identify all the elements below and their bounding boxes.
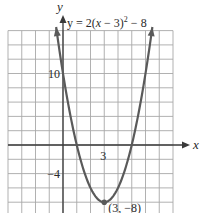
equation-suffix: − 8 bbox=[128, 16, 147, 30]
y-axis-label: y bbox=[55, 0, 63, 14]
annotations: (3, −8) bbox=[108, 201, 141, 213]
vertex-point bbox=[101, 199, 107, 205]
y-axis-arrow-icon bbox=[60, 15, 67, 23]
equation-mid: − 3) bbox=[101, 16, 124, 30]
x-axis-label: x bbox=[192, 137, 199, 152]
x-tick-label: 3 bbox=[100, 149, 106, 163]
equation-prefix: y = 2( bbox=[67, 16, 96, 30]
y-tick-label: 10 bbox=[48, 67, 60, 81]
vertex-label: (3, −8) bbox=[108, 201, 141, 213]
parabola-chart: x y y = 2(x − 3)2 − 8 310−4 (3, −8) bbox=[0, 0, 201, 213]
y-tick-label: −4 bbox=[47, 167, 60, 181]
equation-label: y = 2(x − 3)2 − 8 bbox=[67, 15, 147, 30]
x-axis-arrow-icon bbox=[182, 142, 190, 149]
